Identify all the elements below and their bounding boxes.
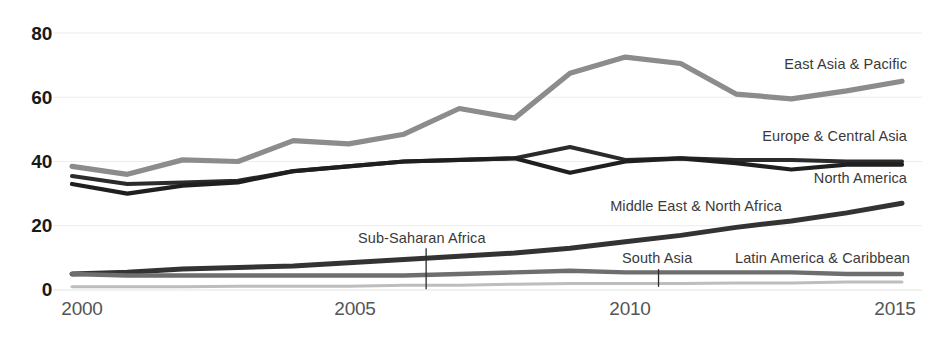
y-axis-tick-20: 20 — [8, 215, 52, 237]
series-label-europe-central-asia: Europe & Central Asia — [762, 128, 907, 144]
y-axis-tick-60: 60 — [8, 87, 52, 109]
line-chart: 80 60 40 20 0 2000 2005 2010 2015 East A… — [0, 0, 934, 337]
series-label-latin-america-caribbean: Latin America & Caribbean — [735, 250, 910, 266]
series-line-south-asia — [72, 282, 902, 287]
series-label-south-asia: South Asia — [622, 250, 692, 266]
series-label-sub-saharan-africa: Sub-Saharan Africa — [358, 230, 486, 246]
x-axis-tick-2015: 2015 — [850, 298, 934, 320]
series-line-latin-america-caribbean — [72, 271, 902, 276]
series-label-middle-east-north-africa: Middle East & North Africa — [610, 198, 782, 214]
chart-plot-area — [0, 0, 934, 337]
series-label-east-asia-pacific: East Asia & Pacific — [784, 56, 907, 72]
x-axis-tick-2005: 2005 — [310, 298, 400, 320]
series-line-east-asia-pacific — [72, 57, 902, 174]
series-line-north-america — [72, 158, 902, 193]
y-axis-tick-80: 80 — [8, 23, 52, 45]
x-axis-tick-2010: 2010 — [585, 298, 675, 320]
series-line-europe-central-asia — [72, 147, 902, 184]
x-axis-tick-2000: 2000 — [37, 298, 127, 320]
series-label-north-america: North America — [814, 170, 907, 186]
y-axis-tick-40: 40 — [8, 151, 52, 173]
